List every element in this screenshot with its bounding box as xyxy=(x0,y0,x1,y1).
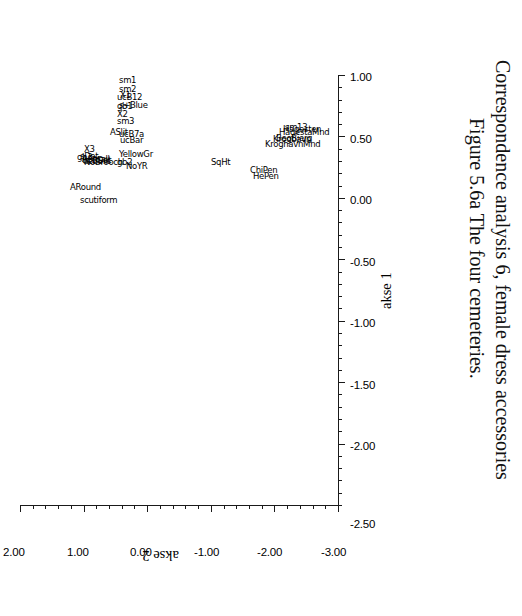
ticklabel-akse2: 2.00 xyxy=(3,546,25,558)
tick-akse1-major xyxy=(338,444,345,445)
tick-akse1-minor xyxy=(338,112,342,113)
tick-akse1-minor xyxy=(338,431,342,432)
ticklabel-akse2: -3.00 xyxy=(321,546,346,558)
tick-akse2-major xyxy=(84,505,85,512)
tick-akse1-minor xyxy=(338,124,342,125)
ticklabel-akse2: -1.00 xyxy=(194,546,219,558)
tick-akse1-minor xyxy=(338,333,342,334)
tick-akse1-minor xyxy=(338,100,342,101)
tick-akse1-minor xyxy=(338,296,342,297)
rotated-plot-container: -2.00-1.50-1.00-0.500.000.501.00-2.50 -3… xyxy=(10,48,410,568)
scatter-point-label: ARound xyxy=(70,183,101,192)
tick-akse1-minor xyxy=(338,186,342,187)
scatter-point-label: sm1 xyxy=(119,76,136,85)
axis-title-akse2: akse 2 xyxy=(142,547,179,564)
tick-akse1-major xyxy=(338,198,345,199)
tick-akse1-major xyxy=(338,136,345,137)
tick-akse1-minor xyxy=(338,345,342,346)
ticklabel-akse1: 0.00 xyxy=(350,194,372,206)
tick-akse1-minor xyxy=(338,161,342,162)
tick-akse1-minor xyxy=(338,308,342,309)
caption-line-1: Figure 5.6a The four cemeteries. xyxy=(465,118,488,379)
scatter-point-label: scutiform xyxy=(80,196,117,205)
ticklabel-akse1-origin: -2.50 xyxy=(350,518,375,530)
tick-akse1-major xyxy=(338,75,345,76)
scatter-point-label: ASlit xyxy=(110,128,128,137)
scatter-point-label: gb2 xyxy=(117,158,132,167)
scatter-point-label: SqHt xyxy=(211,158,230,167)
axis-line-akse1 xyxy=(338,76,339,506)
tick-akse1-minor xyxy=(338,394,342,395)
figure-plot-area: -2.00-1.50-1.00-0.500.000.501.00-2.50 -3… xyxy=(0,0,420,616)
tick-akse1-minor xyxy=(338,358,342,359)
tick-akse1-minor xyxy=(338,247,342,248)
figure-caption: Figure 5.6a The four cemeteries. Corresp… xyxy=(420,0,522,616)
scatter-point-label: HePen xyxy=(253,172,279,181)
tick-akse1-major xyxy=(338,259,345,260)
ticklabel-akse1: -0.50 xyxy=(350,256,375,268)
scatter-point-label: X2 xyxy=(117,110,128,119)
ticklabel-akse2: -2.00 xyxy=(257,546,282,558)
tick-akse1-minor xyxy=(338,173,342,174)
axis-title-akse1: akse 1 xyxy=(378,272,395,309)
tick-akse2-major xyxy=(211,505,212,512)
tick-akse1-minor xyxy=(338,456,342,457)
scatter-point-label: YellowGr xyxy=(119,150,153,159)
tick-akse1-minor xyxy=(338,210,342,211)
tick-akse1-major xyxy=(338,382,345,383)
tick-akse1-minor xyxy=(338,468,342,469)
ticklabel-akse2: 1.00 xyxy=(67,546,89,558)
tick-akse1-minor xyxy=(338,149,342,150)
tick-akse1-minor xyxy=(338,493,342,494)
tick-akse2-major xyxy=(147,505,148,512)
tick-akse1-minor xyxy=(338,480,342,481)
ticklabel-akse1: -1.00 xyxy=(350,317,375,329)
tick-akse1-major xyxy=(338,321,345,322)
scatter-point-label: sm13 xyxy=(285,123,307,132)
ticklabel-akse1: 1.00 xyxy=(350,72,372,84)
tick-akse1-minor xyxy=(338,235,342,236)
tick-akse1-minor xyxy=(338,370,342,371)
tick-akse1-minor xyxy=(338,222,342,223)
ticklabel-akse1: 0.50 xyxy=(350,133,372,145)
scatter-points-layer: ARoundscutiformgb3X3ASmallucBDotsDotucBS… xyxy=(20,76,338,506)
tick-akse2-major xyxy=(274,505,275,512)
ticklabel-akse1: -1.50 xyxy=(350,379,375,391)
tick-akse1-minor xyxy=(338,272,342,273)
tick-akse1-minor xyxy=(338,284,342,285)
ticklabel-akse1: -2.00 xyxy=(350,440,375,452)
tick-akse1-minor xyxy=(338,419,342,420)
tick-akse1-minor xyxy=(338,407,342,408)
tick-akse1-minor xyxy=(338,87,342,88)
tick-akse2-major xyxy=(20,505,21,512)
scatter-point-label: sm2 xyxy=(119,85,136,94)
caption-line-2: Correspondence analysis 6, female dress … xyxy=(491,60,514,480)
tick-akse2-major xyxy=(338,505,339,512)
